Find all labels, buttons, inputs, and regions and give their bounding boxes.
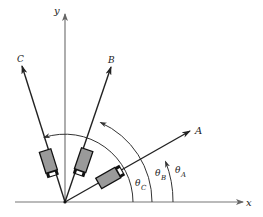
theta-c-subscript: C — [141, 184, 147, 192]
detector-a — [96, 165, 125, 189]
detector-c — [39, 149, 59, 178]
theta-b-subscript: B — [160, 174, 166, 182]
vector-b-label: B — [107, 55, 115, 65]
theta-a-arc — [166, 162, 174, 203]
angle-diagram: x y A B C θ A θ B θ C — [0, 0, 263, 217]
theta-a-subscript: A — [180, 171, 186, 179]
origin-point — [63, 200, 66, 203]
theta-b-label: θ B — [155, 168, 166, 182]
detector-b — [73, 148, 93, 177]
theta-c-label: θ C — [135, 178, 147, 192]
vector-c-label: C — [17, 54, 24, 64]
vector-a-label: A — [194, 125, 202, 136]
y-axis-label: y — [53, 5, 60, 16]
theta-a-label: θ A — [175, 165, 186, 179]
x-axis-label: x — [246, 197, 252, 208]
